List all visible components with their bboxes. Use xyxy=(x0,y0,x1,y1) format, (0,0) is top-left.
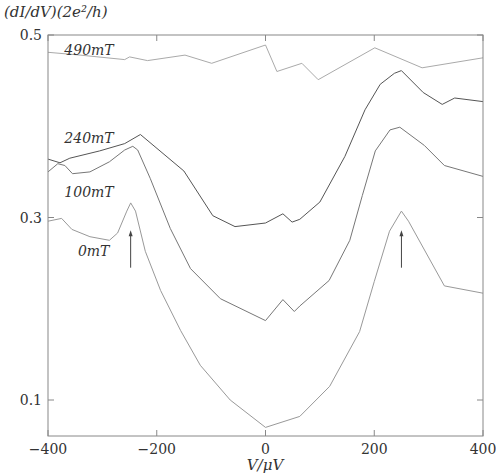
x-tick-label: −200 xyxy=(138,441,176,457)
series-label: 490mT xyxy=(63,42,115,58)
x-tick-label: −400 xyxy=(29,441,67,457)
x-tick-label: 400 xyxy=(470,441,496,457)
series-100mT xyxy=(48,127,483,320)
annotations: 490mT240mT100mT0mT xyxy=(63,42,403,268)
x-tick-label: 200 xyxy=(361,441,388,457)
plot-frame xyxy=(48,35,483,436)
series-0mT xyxy=(48,203,483,428)
series-label: 240mT xyxy=(63,130,115,146)
y-tick-label: 0.3 xyxy=(20,210,42,226)
arrow-head-icon xyxy=(129,230,133,236)
y-axis-label: (dI/dV)(2e²/h) xyxy=(4,3,108,21)
x-tick-label: 0 xyxy=(261,441,270,457)
x-axis-label: V/μV xyxy=(247,456,286,474)
y-tick-label: 0.1 xyxy=(20,392,42,408)
chart-svg: −400−2000200400 0.10.30.5 490mT240mT100m… xyxy=(0,0,496,474)
series-label: 0mT xyxy=(78,243,111,259)
series-240mT xyxy=(48,71,483,227)
arrow-head-icon xyxy=(399,230,403,236)
y-tick-label: 0.5 xyxy=(20,27,42,43)
series-label: 100mT xyxy=(64,184,115,200)
y-axis-ticks: 0.10.30.5 xyxy=(20,27,483,408)
curves xyxy=(48,45,483,427)
